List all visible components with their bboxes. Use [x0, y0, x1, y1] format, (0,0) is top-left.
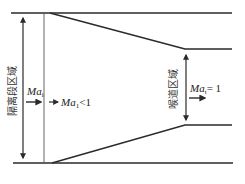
- upper-converging-contour: [50, 13, 232, 49]
- throat-region-label: 喉道区域: [167, 69, 179, 109]
- post-inlet-mach-symbol: Ma: [60, 96, 76, 108]
- inlet-mach-symbol: Ma: [26, 85, 42, 97]
- throat-mach-symbol: Ma: [189, 82, 205, 94]
- isolation-region-label: 隔离段区域: [6, 66, 18, 116]
- post-inlet-mach-relation: <1: [79, 96, 91, 108]
- inlet-mach-label: Mai: [26, 85, 44, 99]
- throat-mach-label: Mat= 1: [189, 82, 221, 96]
- throat-mach-relation: = 1: [207, 82, 221, 94]
- post-inlet-mach-label: Ma1<1: [60, 96, 91, 110]
- nozzle-diagram: 隔离段区域 喉道区域 Mai Ma1<1 Mat= 1: [0, 0, 245, 184]
- inlet-mach-subscript: i: [42, 91, 44, 99]
- lower-converging-contour: [52, 125, 232, 163]
